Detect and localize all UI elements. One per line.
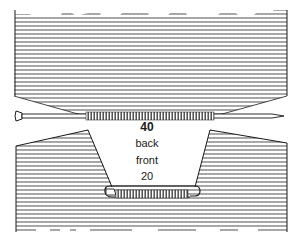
back-piece xyxy=(14,10,287,116)
front-stitches-on-holder xyxy=(116,190,188,198)
back-stitches-on-needle xyxy=(86,112,214,120)
back-label: back xyxy=(0,137,294,149)
front-stitch-count: 20 xyxy=(0,170,294,182)
knitting-diagram xyxy=(0,0,294,235)
front-label: front xyxy=(0,154,294,166)
back-stitch-count: 40 xyxy=(0,121,294,133)
